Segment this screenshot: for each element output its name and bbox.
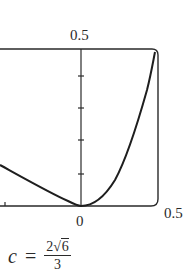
equals-sign: =	[25, 245, 36, 268]
equation-variable: c	[8, 245, 17, 268]
plot-area	[0, 0, 196, 279]
radicand: 6	[61, 238, 69, 254]
equation-annotation: c = 2√6 3	[8, 240, 71, 272]
x-axis-max-label: 0.5	[164, 206, 183, 221]
y-axis-max-label: 0.5	[70, 28, 89, 43]
curve-line	[0, 52, 155, 206]
fraction-denominator: 3	[54, 256, 61, 272]
plot-frame	[0, 49, 158, 206]
origin-label: 0	[76, 214, 84, 229]
sqrt-icon: √	[53, 239, 61, 254]
fraction-numerator: 2√6	[44, 240, 71, 256]
fraction: 2√6 3	[44, 240, 71, 272]
